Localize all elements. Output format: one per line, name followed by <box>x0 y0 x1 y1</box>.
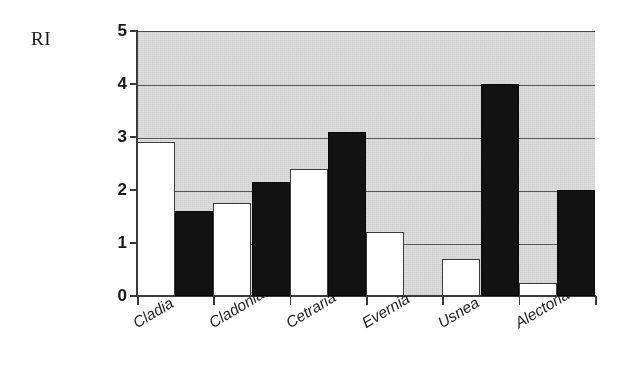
x-tick-mark-evernia <box>366 296 368 305</box>
y-tick-mark-5 <box>130 30 137 32</box>
gridline-4 <box>137 85 595 86</box>
y-tick-label-1: 1 <box>118 233 127 253</box>
y-tick-label-3: 3 <box>118 127 127 147</box>
bar-usnea-series-2 <box>481 84 519 296</box>
y-tick-label-4: 4 <box>118 74 127 94</box>
bar-evernia-series-1 <box>366 232 404 296</box>
bar-chart-figure: RI 012345 CladiaCladoniaCetrariaEverniaU… <box>0 0 632 391</box>
y-tick-mark-3 <box>130 136 137 138</box>
y-tick-mark-2 <box>130 189 137 191</box>
bar-cladia-series-1 <box>137 142 175 296</box>
plot-area <box>137 31 595 296</box>
y-tick-label-0: 0 <box>118 286 127 306</box>
bar-alectoria-series-1 <box>519 283 557 296</box>
bar-alectoria-series-2 <box>557 190 595 296</box>
x-tick-mark-end <box>595 296 597 305</box>
bar-cladonia-series-1 <box>213 203 251 296</box>
y-tick-label-2: 2 <box>118 180 127 200</box>
bar-cladonia-series-2 <box>252 182 290 296</box>
y-tick-label-5: 5 <box>118 21 127 41</box>
y-axis-tick-labels: 012345 <box>95 31 127 296</box>
x-tick-mark-alectoria <box>519 296 521 305</box>
y-tick-mark-4 <box>130 83 137 85</box>
x-tick-mark-cetraria <box>290 296 292 305</box>
bar-cetraria-series-1 <box>290 169 328 296</box>
bar-usnea-series-1 <box>442 259 480 296</box>
x-tick-mark-usnea <box>442 296 444 305</box>
bar-cetraria-series-2 <box>328 132 366 296</box>
gridline-3 <box>137 138 595 139</box>
x-tick-mark-cladia <box>137 296 139 305</box>
bar-cladia-series-2 <box>175 211 213 296</box>
y-axis-title: RI <box>31 28 51 50</box>
y-tick-mark-0 <box>130 295 137 297</box>
gridline-2 <box>137 191 595 192</box>
y-tick-mark-1 <box>130 242 137 244</box>
x-tick-mark-cladonia <box>213 296 215 305</box>
